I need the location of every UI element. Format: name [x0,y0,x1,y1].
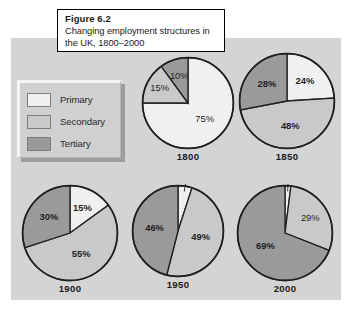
pie-slice-label: 30% [40,211,59,222]
legend-swatch-tertiary [27,137,51,151]
pie-year-label-1850: 1850 [238,151,336,162]
legend-swatch-secondary [27,115,51,129]
pie-slice-label: 48% [281,120,300,131]
pie-svg-1900: 15%55%30% [21,184,119,282]
pie-svg-1950: 5%49%46% [131,184,225,278]
pie-svg-2000: 2%29%69% [236,184,334,282]
legend-label-tertiary: Tertiary [60,138,91,149]
pie-slice-label: 10% [170,70,189,81]
figure-caption: Figure 6.2 Changing employment structure… [57,9,225,52]
pie-svg-1800: 75%15%10% [141,56,235,150]
legend-item-tertiary: Tertiary [27,133,120,154]
pie-slice-label: 55% [72,248,91,259]
pie-chart-1850: 24%48%28% 1850 [238,52,336,162]
pie-slice-label: 15% [150,82,169,93]
pie-slice-label: 46% [145,222,164,233]
label-leader-line [288,184,289,191]
pie-slice-label: 28% [258,78,277,89]
pie-year-label-2000: 2000 [236,283,334,294]
legend-item-secondary: Secondary [27,111,120,132]
pie-slice-label: 69% [256,240,275,251]
figure-root: Figure 6.2 Changing employment structure… [0,0,350,312]
pie-slice-label: 49% [191,231,210,242]
pie-slice-label: 15% [73,202,92,213]
caption-line-1: Changing employment structures in [65,25,218,37]
pie-slice-label: 29% [301,212,320,223]
legend-item-primary: Primary [27,89,120,110]
legend: Primary Secondary Tertiary [17,80,121,158]
pie-year-label-1950: 1950 [131,279,225,290]
pie-chart-1800: 75%15%10% 1800 [141,56,235,162]
legend-label-secondary: Secondary [60,116,105,127]
pie-svg-1850: 24%48%28% [238,52,336,150]
legend-swatch-primary [27,93,51,107]
pie-chart-2000: 2%29%69% 2000 [236,184,334,294]
pie-slice-label: 24% [295,75,314,86]
pie-slice-label: 75% [195,113,214,124]
caption-line-2: the UK, 1800–2000 [65,37,218,49]
pie-year-label-1800: 1800 [141,151,235,162]
pie-year-label-1900: 1900 [21,283,119,294]
pie-chart-1900: 15%55%30% 1900 [21,184,119,294]
caption-figure-number: Figure 6.2 [65,13,218,25]
legend-label-primary: Primary [60,94,92,105]
pie-chart-1950: 5%49%46% 1950 [131,184,225,290]
